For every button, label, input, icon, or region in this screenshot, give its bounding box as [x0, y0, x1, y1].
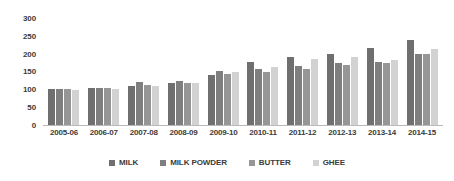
bar	[48, 89, 55, 125]
bar	[232, 72, 239, 126]
bar	[192, 83, 199, 125]
bar	[375, 62, 382, 125]
y-tick-label: 200	[23, 50, 36, 59]
x-tick-label: 2013-14	[368, 128, 396, 144]
bar	[431, 49, 438, 125]
bar	[287, 57, 294, 125]
legend-item[interactable]: MILK POWDER	[160, 158, 227, 167]
y-tick-label: 100	[23, 85, 36, 94]
bar	[168, 83, 175, 125]
x-tick-label: 2009-10	[209, 128, 237, 144]
bar	[104, 88, 111, 125]
bar-group	[168, 18, 199, 125]
y-tick-label: 150	[23, 67, 36, 76]
bar	[184, 83, 191, 125]
bar	[128, 86, 135, 125]
bar-group	[128, 18, 159, 125]
bar	[295, 66, 302, 125]
bar	[224, 74, 231, 125]
legend-label: GHEE	[323, 158, 345, 167]
bar	[271, 67, 278, 125]
bar	[255, 69, 262, 125]
legend-label: MILK POWDER	[170, 158, 227, 167]
y-tick-label: 50	[27, 103, 36, 112]
bar-group	[367, 18, 398, 125]
y-tick-label: 250	[23, 32, 36, 41]
legend-label: MILK	[119, 158, 138, 167]
bar	[136, 82, 143, 125]
x-tick-label: 2012-13	[328, 128, 356, 144]
bar	[303, 69, 310, 125]
legend-swatch-icon	[249, 160, 255, 166]
legend-swatch-icon	[313, 160, 319, 166]
legend-label: BUTTER	[259, 158, 291, 167]
bar-chart: 300 250 200 150 100 50 0 2005-062006-072…	[0, 0, 454, 181]
x-tick-label: 2008-09	[170, 128, 198, 144]
bar	[335, 63, 342, 125]
legend-item[interactable]: MILK	[109, 158, 138, 167]
x-axis: 2005-062006-072007-082008-092009-102010-…	[44, 128, 442, 144]
bar	[96, 88, 103, 125]
plot-area	[44, 18, 442, 125]
bar	[407, 40, 414, 125]
bar	[327, 54, 334, 125]
bar	[216, 71, 223, 125]
bar	[415, 54, 422, 125]
bar	[72, 90, 79, 125]
bar-group	[327, 18, 358, 125]
bar	[343, 65, 350, 125]
bar-group	[48, 18, 79, 125]
x-tick-label: 2010-11	[249, 128, 277, 144]
bar	[383, 63, 390, 125]
bar	[311, 59, 318, 125]
bar-group	[88, 18, 119, 125]
x-axis-line	[43, 125, 443, 126]
bar	[423, 54, 430, 125]
bar	[367, 48, 374, 125]
legend-item[interactable]: GHEE	[313, 158, 345, 167]
x-tick-label: 2007-08	[130, 128, 158, 144]
y-tick-label: 0	[32, 121, 36, 130]
bar	[263, 72, 270, 126]
bar	[64, 89, 71, 125]
bar	[152, 86, 159, 125]
chart-legend: MILKMILK POWDERBUTTERGHEE	[0, 158, 454, 167]
legend-item[interactable]: BUTTER	[249, 158, 291, 167]
bar	[144, 85, 151, 125]
legend-swatch-icon	[109, 160, 115, 166]
bar	[351, 57, 358, 125]
bar-group	[208, 18, 239, 125]
legend-swatch-icon	[160, 160, 166, 166]
bar-group	[247, 18, 278, 125]
bar	[391, 60, 398, 125]
bar-group	[287, 18, 318, 125]
y-axis: 300 250 200 150 100 50 0	[0, 0, 44, 181]
bar-group	[407, 18, 438, 125]
y-tick-label: 300	[23, 14, 36, 23]
bar	[56, 89, 63, 125]
x-tick-label: 2011-12	[289, 128, 317, 144]
x-tick-label: 2006-07	[90, 128, 118, 144]
bar	[88, 88, 95, 125]
bar	[247, 62, 254, 125]
bar	[176, 81, 183, 125]
bar	[208, 75, 215, 125]
x-tick-label: 2014-15	[408, 128, 436, 144]
bar	[112, 89, 119, 125]
x-tick-label: 2005-06	[50, 128, 78, 144]
